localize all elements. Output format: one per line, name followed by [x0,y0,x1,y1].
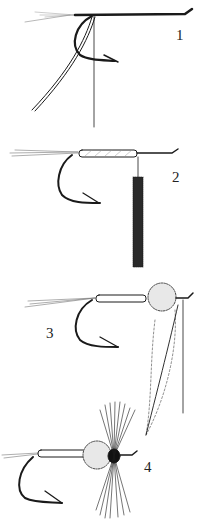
step-label-1: 1 [176,28,184,43]
step-label-2: 2 [172,170,180,185]
step-label-3: 3 [46,326,54,341]
step-1-drawing [25,9,192,127]
step-2-drawing [10,149,178,267]
step-3-drawing [25,283,193,435]
step-label-4: 4 [144,460,152,475]
fly-tying-diagram: 1 2 3 4 [0,0,202,527]
fly-tying-illustration [0,0,202,527]
step-4-drawing [2,402,137,518]
